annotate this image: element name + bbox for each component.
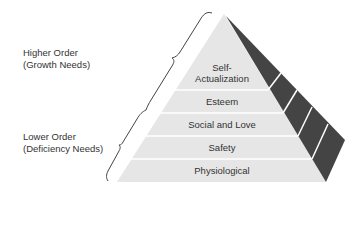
group-label-line: (Growth Needs) xyxy=(23,59,90,71)
level-safety: Safety xyxy=(180,142,264,153)
level-label-line: Actualization xyxy=(180,73,264,84)
level-self-actualization: Self- Actualization xyxy=(180,62,264,84)
group-label-line: Higher Order xyxy=(23,47,90,59)
level-label-line: Self- xyxy=(180,62,264,73)
group-label-line: (Deficiency Needs) xyxy=(23,143,103,155)
level-social-and-love: Social and Love xyxy=(170,119,274,130)
group-label-higher-order: Higher Order (Growth Needs) xyxy=(23,47,90,71)
level-physiological: Physiological xyxy=(170,165,274,176)
level-esteem: Esteem xyxy=(180,96,264,107)
group-label-lower-order: Lower Order (Deficiency Needs) xyxy=(23,131,103,155)
group-label-line: Lower Order xyxy=(23,131,103,143)
